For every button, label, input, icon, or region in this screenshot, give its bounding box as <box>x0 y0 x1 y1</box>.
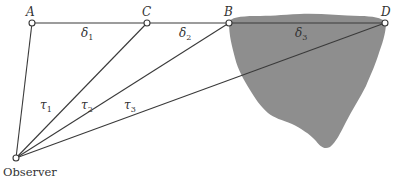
label-tau-1: τ1 <box>40 98 52 114</box>
label-tau-3: τ3 <box>124 98 136 114</box>
label-observer: Observer <box>3 165 57 179</box>
gray-region <box>229 14 386 148</box>
point-d <box>382 20 388 26</box>
label-tau-2: τ2 <box>81 98 93 114</box>
label-d: D <box>380 5 391 19</box>
sight-line-a <box>16 23 32 158</box>
point-observer <box>13 155 19 161</box>
label-b: B <box>223 5 233 19</box>
sight-line-c <box>16 23 147 158</box>
sight-line-b <box>16 23 229 158</box>
label-delta-2: δ2 <box>179 26 191 42</box>
label-a: A <box>25 5 35 19</box>
label-delta-1: δ1 <box>81 26 93 42</box>
point-c <box>144 20 150 26</box>
point-b <box>226 20 232 26</box>
observer-diagram: A C B D Observer δ1 δ2 δ3 τ1 τ2 τ3 <box>0 0 399 183</box>
label-c: C <box>142 5 151 19</box>
point-a <box>29 20 35 26</box>
